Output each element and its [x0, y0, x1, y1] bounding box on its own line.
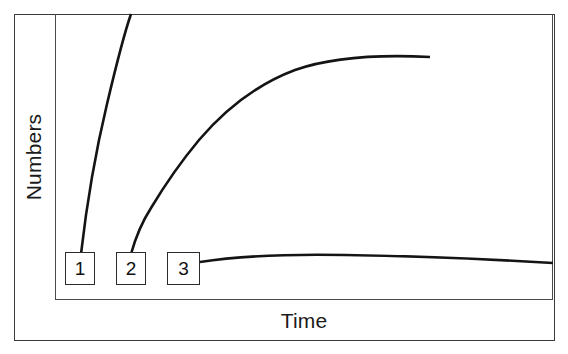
marker-box-1-label: 1	[75, 259, 86, 278]
y-axis-label: Numbers	[14, 14, 55, 300]
x-axis-label: Time	[55, 300, 553, 341]
x-axis-label-text: Time	[281, 309, 328, 333]
curve-2-path	[131, 56, 430, 254]
marker-box-3-label: 3	[178, 259, 189, 278]
figure-root: 1 2 3 Numbers Time	[0, 0, 568, 354]
marker-box-1: 1	[65, 252, 95, 285]
marker-box-2-label: 2	[126, 259, 137, 278]
marker-box-2: 2	[116, 252, 146, 285]
y-axis-label-text: Numbers	[23, 114, 47, 201]
curve-1-path	[81, 14, 131, 254]
curve-3-path	[200, 255, 553, 263]
marker-box-3: 3	[167, 252, 200, 285]
